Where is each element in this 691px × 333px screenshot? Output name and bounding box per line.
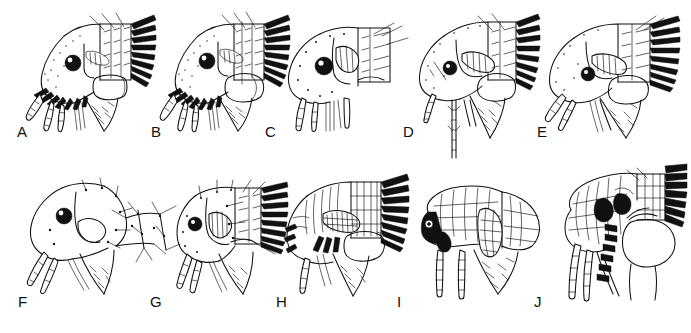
figure-label-f: F	[18, 294, 28, 309]
figure-panel-c	[272, 14, 412, 132]
figure-label-a: A	[17, 124, 28, 139]
figure-label-g: G	[150, 294, 162, 309]
figure-label-b: B	[151, 124, 162, 139]
figure-panel-a	[18, 8, 158, 133]
figure-label-i: I	[397, 294, 402, 309]
figure-label-j: J	[534, 294, 542, 309]
figure-label-h: H	[276, 294, 287, 309]
figure-panel-i	[398, 176, 548, 301]
figure-plate: A	[0, 0, 691, 333]
figure-panel-j	[535, 164, 691, 302]
figure-label-e: E	[537, 124, 548, 139]
figure-label-c: C	[265, 124, 276, 139]
figure-label-d: D	[403, 124, 414, 139]
figure-panel-b	[152, 8, 292, 133]
figure-panel-e	[538, 10, 688, 138]
figure-panel-g	[165, 176, 295, 294]
figure-panel-d	[404, 6, 544, 161]
figure-panel-h	[277, 172, 412, 297]
